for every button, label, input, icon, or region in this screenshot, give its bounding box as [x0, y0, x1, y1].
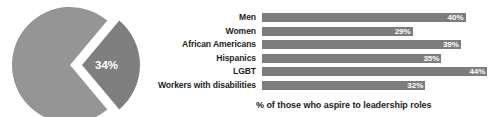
pie-slice-value-label: 34%	[95, 59, 118, 71]
bar-track: 44%	[262, 67, 492, 76]
bar-category-label: Hispanics	[150, 54, 262, 63]
figure-root: aspire to leadership roles 34% Men 40% W…	[0, 0, 492, 117]
bar-row: African Americans 39%	[150, 40, 492, 49]
bar-fill: 35%	[262, 54, 441, 63]
bar-value-label: 39%	[443, 40, 461, 49]
bar-fill: 44%	[262, 67, 487, 76]
pie-chart-svg: 34%	[0, 2, 150, 117]
bar-track: 35%	[262, 54, 492, 63]
bar-row: Women 29%	[150, 27, 492, 36]
bar-value-label: 35%	[423, 54, 441, 63]
bar-category-label: Men	[150, 13, 262, 22]
bar-row: Hispanics 35%	[150, 54, 492, 63]
bar-fill: 29%	[262, 27, 413, 36]
pie-chart: 34%	[0, 2, 150, 117]
bar-value-label: 44%	[469, 67, 487, 76]
x-axis-caption: % of those who aspire to leadership role…	[256, 100, 432, 110]
bar-row: Workers with disabilities 32%	[150, 81, 492, 90]
bar-value-label: 40%	[448, 13, 466, 22]
bar-category-label: African Americans	[150, 40, 262, 49]
bar-category-label: Women	[150, 27, 262, 36]
bar-fill: 32%	[262, 81, 425, 90]
bar-value-label: 32%	[407, 81, 425, 90]
bar-row: Men 40%	[150, 13, 492, 22]
bar-category-label: Workers with disabilities	[150, 81, 262, 90]
bar-track: 32%	[262, 81, 492, 90]
bar-category-label: LGBT	[150, 67, 262, 76]
bar-track: 40%	[262, 13, 492, 22]
bar-fill: 40%	[262, 13, 466, 22]
bar-track: 29%	[262, 27, 492, 36]
bar-track: 39%	[262, 40, 492, 49]
bar-fill: 39%	[262, 40, 461, 49]
bar-row: LGBT 44%	[150, 67, 492, 76]
bar-value-label: 29%	[395, 27, 413, 36]
